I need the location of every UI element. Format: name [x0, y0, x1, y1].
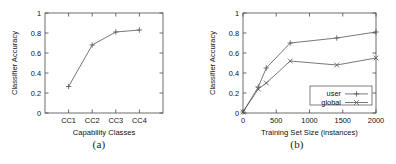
chart-panel-a: 00.20.40.60.81CC1CC2CC3CC4Capability Cla… — [0, 0, 198, 164]
y-tick-label: 1 — [37, 9, 41, 18]
legend-marker-user — [354, 91, 359, 96]
y-tick-label: 0.2 — [31, 89, 41, 98]
x-tick-label: 500 — [270, 116, 282, 125]
chart-a-y-axis-title: Classifier Accuracy — [10, 31, 19, 95]
y-tick-label: 0.2 — [229, 89, 239, 98]
y-tick-label: 0.4 — [229, 69, 239, 78]
x-tick-label: 1500 — [335, 116, 351, 125]
panel-a-caption: (a) — [0, 138, 198, 150]
x-tick-label: CC1 — [61, 116, 76, 125]
x-tick-label: 2000 — [368, 116, 384, 125]
figure-container: 00.20.40.60.81CC1CC2CC3CC4Capability Cla… — [0, 0, 396, 164]
chart-b-y-axis-title: Classifier Accuracy — [208, 31, 217, 95]
y-tick-label: 0.6 — [229, 49, 239, 58]
panel-b-caption: (b) — [198, 138, 396, 150]
chart-a-data-point — [90, 42, 95, 47]
chart-b-data-point-global — [264, 81, 269, 86]
chart-a-data-point — [66, 84, 71, 89]
chart-a-plot-frame — [45, 13, 163, 113]
x-tick-label: CC4 — [132, 116, 147, 125]
y-tick-label: 0.8 — [31, 29, 41, 38]
chart-a-data-point — [113, 29, 118, 34]
chart-a-data-point — [137, 27, 142, 32]
legend-label-global: global — [321, 98, 341, 107]
y-tick-label: 0 — [37, 109, 41, 118]
chart-a-x-axis-title: Capability Classes — [73, 128, 136, 137]
chart-b-data-point-user — [334, 35, 339, 40]
y-tick-label: 0.8 — [229, 29, 239, 38]
x-tick-label: CC2 — [85, 116, 100, 125]
x-tick-label: 1000 — [301, 116, 317, 125]
chart-panel-b: 00.20.40.60.810500100015002000userglobal… — [198, 0, 396, 164]
y-tick-label: 1 — [235, 9, 239, 18]
chart-b-series-line-global — [243, 58, 376, 112]
chart-b-data-point-user — [373, 29, 378, 34]
y-tick-label: 0.6 — [31, 49, 41, 58]
chart-a-series-line — [69, 30, 140, 87]
chart-b-x-axis-title: Training Set Size (instances) — [261, 128, 358, 137]
chart-b-series-line-user — [243, 32, 376, 112]
y-tick-label: 0 — [235, 109, 239, 118]
y-tick-label: 0.4 — [31, 69, 41, 78]
x-tick-label: 0 — [241, 116, 245, 125]
x-tick-label: CC3 — [108, 116, 123, 125]
